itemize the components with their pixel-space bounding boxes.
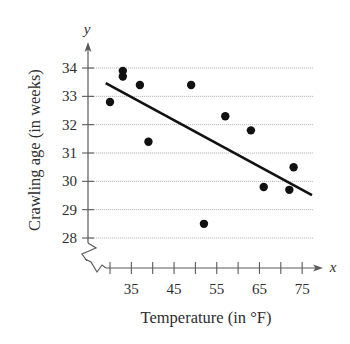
x-tick-label: 75 <box>295 281 310 297</box>
data-point <box>144 137 152 145</box>
y-axis-variable: y <box>82 21 91 37</box>
data-point <box>289 163 297 171</box>
y-tick-label: 34 <box>62 60 78 76</box>
data-point <box>200 220 208 228</box>
trend-line <box>106 83 312 195</box>
x-ticks: 3545556575 <box>110 262 310 297</box>
regression-line <box>106 83 312 195</box>
y-tick-label: 32 <box>62 117 77 133</box>
gridlines <box>88 68 313 238</box>
x-axis-variable: x <box>329 259 337 275</box>
data-point <box>285 186 293 194</box>
data-point <box>136 81 144 89</box>
y-axis-title: Crawling age (in weeks) <box>25 69 44 231</box>
y-tick-label: 29 <box>62 202 77 218</box>
y-tick-label: 33 <box>62 88 77 104</box>
y-tick-label: 31 <box>62 145 77 161</box>
x-tick-label: 45 <box>167 281 182 297</box>
data-point <box>106 98 114 106</box>
x-tick-label: 35 <box>124 281 139 297</box>
data-point <box>260 183 268 191</box>
x-tick-label: 55 <box>209 281 224 297</box>
data-point <box>119 72 127 80</box>
y-axis-break-icon <box>82 243 96 261</box>
x-tick-label: 65 <box>252 281 267 297</box>
scatter-chart: 28293031323334 3545556575 y x Crawling a… <box>0 0 350 344</box>
x-axis-break-icon <box>85 259 106 272</box>
data-points <box>106 67 298 228</box>
data-point <box>247 126 255 134</box>
y-tick-label: 28 <box>62 230 77 246</box>
data-point <box>221 112 229 120</box>
y-tick-label: 30 <box>62 173 77 189</box>
x-axis-title: Temperature (in °F) <box>141 308 272 327</box>
y-ticks: 28293031323334 <box>62 60 94 246</box>
data-point <box>187 81 195 89</box>
